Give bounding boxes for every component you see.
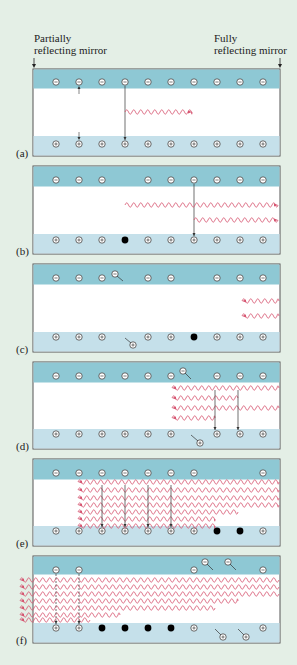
recombined-hole-icon <box>145 625 152 632</box>
recombined-hole-icon <box>237 528 244 535</box>
recombined-hole-icon <box>168 625 175 632</box>
conduction-band <box>34 557 280 575</box>
valence-band <box>34 623 280 643</box>
recombined-hole-icon <box>214 528 221 535</box>
recombined-hole-icon <box>122 237 129 244</box>
recombined-hole-icon <box>99 625 106 632</box>
conduction-band <box>34 460 280 480</box>
conduction-band <box>34 70 280 89</box>
recombined-hole-icon <box>191 334 198 341</box>
recombined-hole-icon <box>122 625 129 632</box>
laser-band-diagram <box>0 0 297 665</box>
conduction-band <box>34 167 280 187</box>
conduction-band <box>34 265 280 285</box>
conduction-band <box>34 363 280 383</box>
valence-band <box>34 234 280 254</box>
